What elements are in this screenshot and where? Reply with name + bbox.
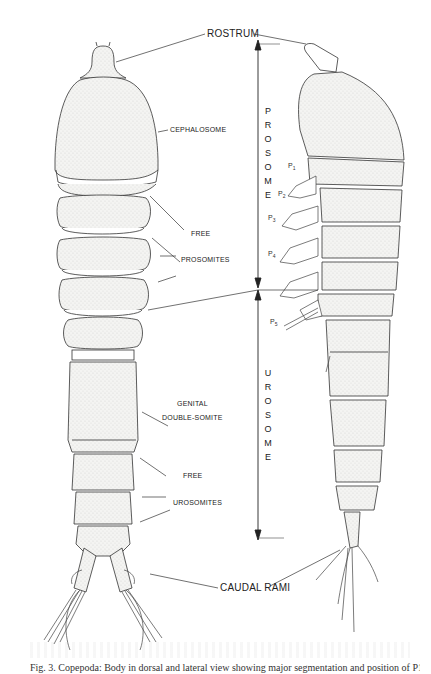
- label-rostrum: ROSTRUM: [207, 28, 259, 39]
- label-genital: GENITAL: [177, 400, 208, 407]
- label-urosomites: UROSOMITES: [173, 499, 222, 506]
- bleed-through-text: [30, 642, 410, 658]
- copepod-anatomy-figure: ROSTRUM CEPHALOSOME FREE PROSOMITES GENI…: [0, 0, 431, 674]
- label-prosome: P R O S O M E: [263, 104, 273, 202]
- label-free-prosomites: FREE: [191, 230, 210, 237]
- figure-caption: Fig. 3. Copepoda: Body in dorsal and lat…: [30, 662, 420, 673]
- lateral-view: [299, 43, 404, 548]
- label-free-urosomites: FREE: [183, 472, 202, 479]
- swimming-legs: [280, 176, 322, 320]
- label-caudal-rami: CAUDAL RAMI: [220, 582, 290, 593]
- label-p5: P5: [270, 318, 277, 327]
- label-p2: P2: [278, 190, 285, 199]
- label-urosome: U R O S O M E: [263, 366, 273, 464]
- illustration-svg: [0, 0, 431, 674]
- label-prosomites: PROSOMITES: [181, 256, 230, 263]
- label-double-somite: DOUBLE-SOMITE: [162, 414, 223, 421]
- label-p3: P3: [268, 214, 275, 223]
- label-p4: P4: [268, 250, 275, 259]
- dorsal-caudal-setae: [44, 570, 162, 650]
- label-cephalosome: CEPHALOSOME: [170, 126, 226, 133]
- dorsal-view: [55, 42, 158, 592]
- label-p1: P1: [288, 162, 295, 171]
